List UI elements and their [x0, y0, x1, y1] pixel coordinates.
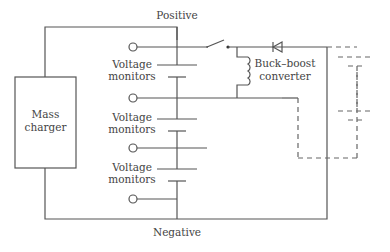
positive-label: Positive [156, 9, 197, 21]
battery-cell [157, 65, 197, 77]
negative-label: Negative [153, 226, 201, 238]
dashed-battery-cell [338, 57, 372, 66]
battery-cell [157, 119, 197, 131]
voltage-monitors-label: Voltage [111, 58, 152, 70]
voltage-monitors-label: Voltage [111, 161, 152, 173]
mass-charger-label-2: charger [25, 121, 68, 133]
converter-label-1: Buck–boost [255, 57, 317, 69]
battery-cell [157, 169, 197, 181]
inductor-symbol [237, 47, 250, 98]
switch-symbol [206, 40, 230, 49]
voltage-monitors-label: monitors [108, 123, 155, 135]
monitor-terminal [129, 195, 137, 203]
circuit-diagram: Mass charger Positive Negative Voltage m… [0, 0, 390, 252]
dashed-battery-cell [338, 111, 372, 120]
monitor-terminal [129, 144, 137, 152]
monitor-terminal [129, 43, 137, 51]
voltage-monitors-label: monitors [108, 173, 155, 185]
converter-label-2: converter [259, 70, 312, 82]
mass-charger-label-1: Mass [32, 108, 60, 120]
monitor-terminal [129, 94, 137, 102]
voltage-monitors-label: monitors [108, 70, 155, 82]
voltage-monitors-label: Voltage [111, 111, 152, 123]
